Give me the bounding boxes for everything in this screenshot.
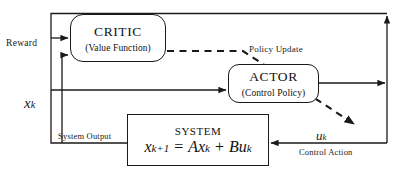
actor-title: ACTOR — [249, 69, 298, 85]
eq-matrix-a: A — [188, 138, 198, 155]
actor-critic-diagram: CRITIC (Value Function) ACTOR (Control P… — [0, 0, 408, 174]
control-action-label: Control Action — [299, 148, 353, 157]
state-subscript: k — [31, 99, 36, 110]
eq-x-rhs: x — [198, 138, 205, 155]
control-variable-label: uk — [316, 129, 326, 142]
eq-matrix-b: B — [229, 138, 239, 155]
eq-x-lhs: x — [144, 138, 151, 155]
eq-u-rhs: u — [239, 138, 247, 155]
state-symbol: x — [24, 95, 31, 111]
actor-subtitle: (Control Policy) — [242, 88, 306, 98]
reward-label: Reward — [6, 39, 37, 49]
critic-subtitle: (Value Function) — [85, 43, 151, 53]
eq-x-lhs-sub: k+1 — [152, 142, 170, 154]
actor-block: ACTOR (Control Policy) — [228, 64, 319, 103]
system-equation: xk+1 = Axk + Buk — [144, 138, 251, 156]
system-output-label: System Output — [58, 132, 111, 141]
critic-block: CRITIC (Value Function) — [70, 14, 166, 62]
critic-title: CRITIC — [94, 24, 142, 40]
policy-update-label: Policy Update — [249, 45, 303, 54]
eq-equals: = — [169, 138, 188, 155]
eq-u-rhs-sub: k — [247, 142, 252, 154]
eq-plus: + — [210, 138, 229, 155]
state-variable-label: xk — [24, 96, 35, 111]
system-block: SYSTEM xk+1 = Axk + Buk — [127, 114, 269, 166]
control-subscript: k — [323, 132, 327, 142]
system-title: SYSTEM — [175, 125, 221, 137]
